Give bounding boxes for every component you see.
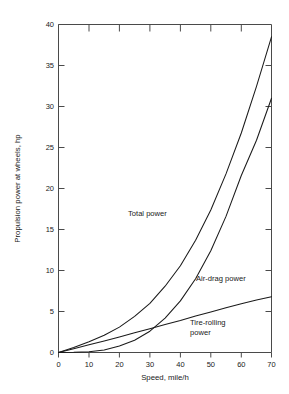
y-axis-right-ticks <box>266 66 272 312</box>
y-tick-labels: 0 5 10 15 20 25 30 35 40 <box>46 20 54 357</box>
chart-figure: 0 5 10 15 20 25 30 35 40 0 10 20 30 40 5… <box>0 0 289 394</box>
y-tick-label: 25 <box>46 143 54 152</box>
series-label-air-drag-power: Air-drag power <box>196 274 246 283</box>
plot-frame <box>59 25 272 353</box>
x-tick-label: 70 <box>267 360 275 369</box>
curve-total-power <box>59 37 272 353</box>
curve-tire-rolling-power <box>59 297 272 353</box>
y-tick-label: 15 <box>46 225 54 234</box>
y-tick-label: 20 <box>46 184 54 193</box>
x-axis-ticks <box>59 353 272 358</box>
y-tick-label: 5 <box>50 307 54 316</box>
x-axis-top-ticks <box>89 25 241 32</box>
x-tick-label: 40 <box>176 360 184 369</box>
series-label-tire-rolling-power-line1: Tire-rolling <box>190 318 226 327</box>
y-tick-label: 0 <box>50 348 54 357</box>
x-tick-labels: 0 10 20 30 40 50 60 70 <box>56 360 275 369</box>
x-tick-label: 30 <box>146 360 154 369</box>
x-tick-label: 10 <box>85 360 93 369</box>
y-tick-label: 40 <box>46 20 54 29</box>
x-tick-label: 20 <box>115 360 123 369</box>
series-label-total-power: Total power <box>128 209 167 218</box>
x-tick-label: 50 <box>207 360 215 369</box>
series-label-tire-rolling-power-line2: power <box>190 328 211 337</box>
y-tick-label: 10 <box>46 266 54 275</box>
x-tick-label: 60 <box>237 360 245 369</box>
y-axis-title: Propulsion power at wheels, hp <box>13 134 22 243</box>
y-axis-ticks <box>59 25 65 353</box>
x-tick-label: 0 <box>56 360 60 369</box>
chart-plot-area: 0 5 10 15 20 25 30 35 40 0 10 20 30 40 5… <box>0 0 289 394</box>
y-tick-label: 35 <box>46 61 54 70</box>
y-tick-label: 30 <box>46 102 54 111</box>
x-axis-title: Speed, mile/h <box>141 373 189 382</box>
